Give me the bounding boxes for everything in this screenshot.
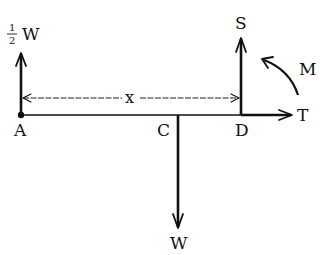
shear-label: S — [235, 13, 247, 33]
half-weight-symbol: W — [22, 24, 40, 44]
half-weight-arrow — [16, 53, 26, 115]
fraction-numerator: 1 — [9, 22, 15, 33]
weight-arrow — [173, 115, 183, 228]
tension-arrow — [241, 110, 292, 120]
point-d-label: D — [235, 120, 249, 140]
dimension-x: x — [23, 88, 239, 107]
moment-label: M — [299, 59, 316, 79]
point-c-label: C — [157, 120, 170, 140]
dimension-x-label: x — [125, 88, 134, 107]
half-weight-label: 1 2 W — [7, 22, 40, 46]
fraction-denominator: 2 — [9, 35, 15, 46]
beam-free-body-diagram: 1 2 W x W S T M A C D — [0, 0, 320, 255]
shear-arrow — [236, 38, 246, 115]
weight-label: W — [170, 233, 188, 253]
tension-label: T — [297, 105, 309, 125]
moment-arrow — [262, 57, 298, 95]
point-a-label: A — [13, 120, 27, 140]
